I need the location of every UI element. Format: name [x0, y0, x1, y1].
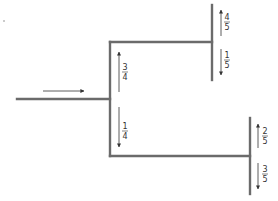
svg-text:4: 4 — [122, 132, 127, 141]
svg-text:1: 1 — [122, 122, 127, 131]
fraction-upper-down: 1 5 — [224, 51, 230, 70]
fraction-trunk-down: 1 4 — [122, 122, 128, 141]
svg-text:5: 5 — [262, 137, 267, 146]
fraction-lower-down: 3 5 — [262, 165, 268, 184]
svg-text:3: 3 — [122, 63, 127, 72]
svg-text:5: 5 — [224, 23, 229, 32]
tree-lines — [17, 5, 250, 194]
svg-text:1: 1 — [224, 51, 229, 60]
stray-dot — [3, 20, 5, 22]
svg-text:4: 4 — [224, 13, 229, 22]
fraction-trunk-up: 3 4 — [122, 63, 128, 82]
fraction-upper-up: 4 5 — [224, 13, 230, 32]
branching-diagram: 3 4 1 4 4 5 1 5 2 5 3 5 — [0, 0, 278, 201]
svg-text:3: 3 — [262, 165, 267, 174]
svg-text:4: 4 — [122, 73, 127, 82]
svg-text:2: 2 — [262, 127, 267, 136]
fraction-lower-up: 2 5 — [262, 127, 268, 146]
svg-text:5: 5 — [262, 175, 267, 184]
svg-text:5: 5 — [224, 61, 229, 70]
